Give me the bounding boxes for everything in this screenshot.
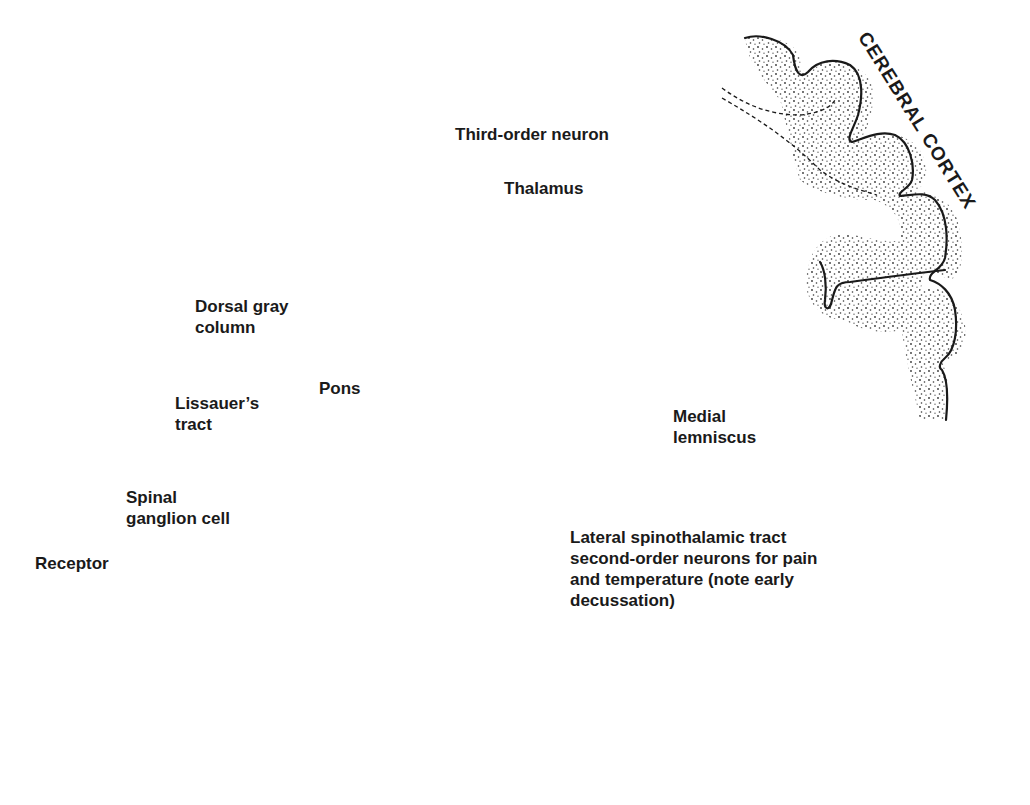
pathway-diagram (0, 0, 1030, 805)
label-lateral-spinothalamic-tract: Lateral spinothalamic tract second-order… (570, 527, 817, 611)
label-thalamus: Thalamus (504, 178, 583, 199)
label-spinal-ganglion-cell: Spinal ganglion cell (126, 487, 230, 529)
label-dorsal-gray-column: Dorsal gray column (195, 296, 289, 338)
label-medial-lemniscus: Medial lemniscus (673, 406, 756, 448)
label-pons: Pons (319, 378, 361, 399)
label-third-order-neuron: Third-order neuron (455, 124, 609, 145)
label-receptor: Receptor (35, 553, 109, 574)
label-lissauers-tract: Lissauer’s tract (175, 393, 259, 435)
cerebral-cortex (722, 36, 965, 420)
